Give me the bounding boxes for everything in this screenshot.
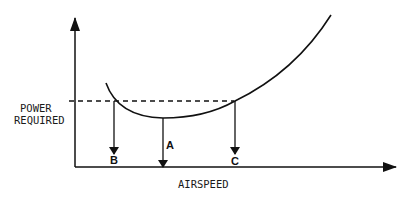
y-axis-label-line1: POWER <box>20 102 52 114</box>
y-axis-label-line2: REQUIRED <box>14 114 65 126</box>
power-required-curve <box>106 15 331 118</box>
point-label-c: C <box>231 155 239 167</box>
power-required-diagram: POWER REQUIRED AIRSPEED B A C <box>0 0 409 207</box>
x-axis-label: AIRSPEED <box>178 178 229 190</box>
point-label-b: B <box>110 154 118 166</box>
point-label-a: A <box>166 139 174 151</box>
